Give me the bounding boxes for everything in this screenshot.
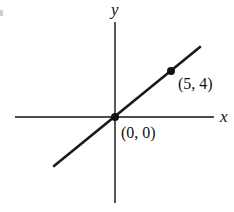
x-axis-label: x (219, 107, 228, 126)
origin-point (111, 113, 119, 121)
graph-line (54, 47, 200, 166)
coordinate-plane: x y (0, 0) (5, 4) (0, 0, 234, 212)
y-axis-label: y (109, 0, 119, 19)
origin-label: (0, 0) (121, 124, 156, 142)
point-5-4-label: (5, 4) (178, 75, 213, 93)
point-5-4 (167, 67, 175, 75)
scan-artifact (0, 10, 3, 16)
